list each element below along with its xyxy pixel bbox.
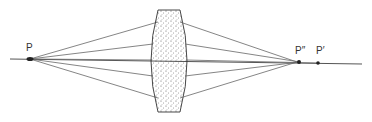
marginal-focus-label: P″	[295, 46, 305, 56]
marginal-focus-marker	[297, 60, 301, 64]
lens-ray-diagram	[0, 0, 372, 122]
convex-lens	[151, 10, 187, 112]
refracted-rays	[180, 22, 318, 98]
object-point-label: P	[26, 43, 33, 53]
paraxial-focus-label: P′	[316, 46, 325, 56]
paraxial-focus-marker	[316, 61, 320, 65]
object-point-marker	[27, 57, 34, 61]
